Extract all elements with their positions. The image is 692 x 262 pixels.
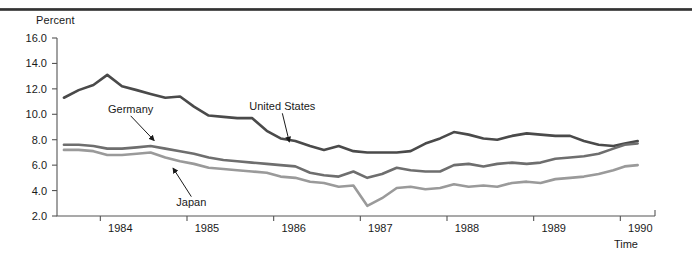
figure-container: Percent Time 16.014.012.010.08.06.04.02.… [0,0,692,262]
y-axis-tick-label: 2.0 [13,210,47,222]
annotation-leader-united-states [282,113,289,141]
series-group [64,75,638,206]
series-line-germany [64,144,638,178]
annotation-label-germany: Germany [108,103,153,115]
annotation-label-japan: Japan [176,196,206,208]
x-axis-tick-label: 1987 [350,222,410,234]
x-axis-tick-label: 1986 [264,222,324,234]
axes-group [52,38,655,221]
annotation-leader-germany [131,116,154,141]
x-axis-tick-label: 1990 [610,222,670,234]
y-axis-tick-label: 16.0 [13,32,47,44]
y-axis-tick-label: 6.0 [13,159,47,171]
x-axis-tick-label: 1989 [524,222,584,234]
x-axis-tick-label: 1984 [90,222,150,234]
y-axis-tick-label: 8.0 [13,134,47,146]
series-line-japan [64,150,638,206]
y-axis-tick-label: 14.0 [13,57,47,69]
annotation-leader-japan [173,168,191,196]
y-axis-tick-label: 10.0 [13,108,47,120]
y-axis-tick-label: 4.0 [13,185,47,197]
x-axis-tick-label: 1985 [177,222,237,234]
y-axis-tick-label: 12.0 [13,83,47,95]
annotation-label-united-states: United States [249,100,315,112]
x-axis-tick-label: 1988 [437,222,497,234]
